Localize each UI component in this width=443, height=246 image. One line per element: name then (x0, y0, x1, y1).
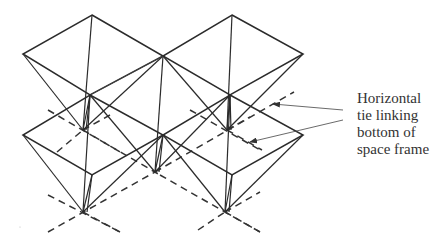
speck (19, 226, 20, 227)
arrow-pointer-upper (273, 104, 343, 110)
pyramid-top-right (163, 15, 303, 130)
pyramid-center (90, 56, 230, 172)
pyramid-bottom-left (23, 95, 163, 212)
pyramid-top-left (23, 15, 163, 130)
pyramid-bottom-right (163, 95, 303, 212)
annotation-label: Horizontal tie linking bottom of space f… (357, 90, 429, 158)
